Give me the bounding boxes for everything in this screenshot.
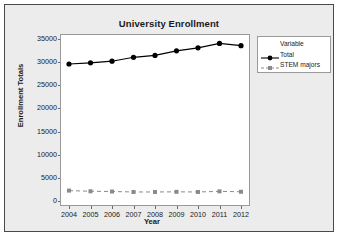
y-tick-label: 20000: [17, 104, 57, 111]
data-point[interactable]: [218, 189, 222, 193]
y-tick-label: 10000: [17, 151, 57, 158]
chart-title: University Enrollment: [5, 18, 333, 29]
data-point[interactable]: [217, 41, 222, 46]
plot-area: [60, 34, 250, 206]
legend-label: STEM majors: [280, 61, 320, 68]
data-point[interactable]: [109, 59, 114, 64]
chart-window: University Enrollment Enrollment Totals …: [4, 4, 334, 232]
data-point[interactable]: [67, 189, 71, 193]
plot-series-svg: [61, 35, 249, 205]
x-tick-mark: [241, 206, 242, 209]
x-tick-mark: [112, 206, 113, 209]
legend-label: Total: [280, 51, 294, 58]
x-tick-mark: [134, 206, 135, 209]
data-point[interactable]: [196, 190, 200, 194]
data-point[interactable]: [66, 61, 71, 66]
y-tick-label: 15000: [17, 128, 57, 135]
x-tick-mark: [198, 206, 199, 209]
y-tick-label: 5000: [17, 174, 57, 181]
legend-title: Variable: [280, 40, 327, 47]
legend-entry[interactable]: STEM majors: [260, 59, 327, 69]
data-point[interactable]: [110, 190, 114, 194]
chart-legend: Variable TotalSTEM majors: [257, 36, 331, 73]
legend-entry[interactable]: Total: [260, 49, 327, 59]
y-tick-label: 25000: [17, 81, 57, 88]
data-point[interactable]: [238, 43, 243, 48]
data-point[interactable]: [174, 48, 179, 53]
data-point[interactable]: [175, 190, 179, 194]
data-point[interactable]: [89, 189, 93, 193]
y-tick-label: 35000: [17, 35, 57, 42]
y-axis-tick-labels: 05000100001500020000250003000035000: [13, 34, 57, 206]
x-tick-mark: [155, 206, 156, 209]
data-point[interactable]: [152, 53, 157, 58]
y-tick-label: 0: [17, 197, 57, 204]
x-axis-title: Year: [53, 217, 251, 226]
data-point[interactable]: [239, 190, 243, 194]
data-point[interactable]: [195, 45, 200, 50]
data-point[interactable]: [131, 55, 136, 60]
data-point[interactable]: [153, 190, 157, 194]
data-point[interactable]: [132, 190, 136, 194]
x-tick-mark: [69, 206, 70, 209]
x-tick-mark: [91, 206, 92, 209]
legend-entries: TotalSTEM majors: [260, 49, 327, 69]
y-tick-label: 30000: [17, 58, 57, 65]
legend-square-marker-icon: [260, 59, 280, 69]
data-point[interactable]: [88, 60, 93, 65]
x-tick-mark: [177, 206, 178, 209]
legend-circle-marker-icon: [260, 49, 280, 59]
x-tick-mark: [220, 206, 221, 209]
